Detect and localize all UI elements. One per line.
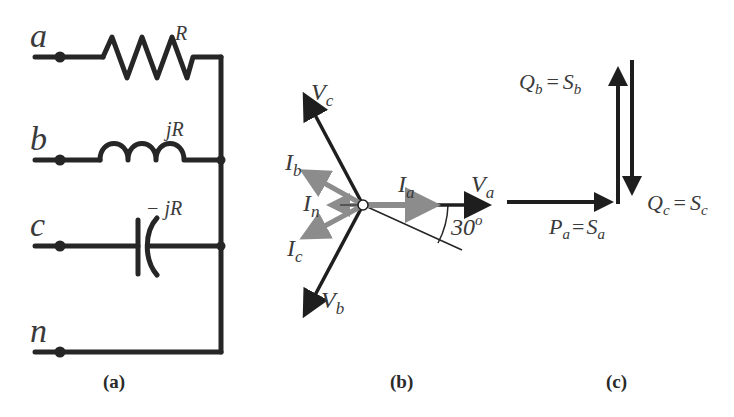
resistor-label: R (174, 22, 187, 44)
caption-b: (b) (390, 371, 413, 393)
inductor-icon (100, 144, 221, 161)
junction-b-dot (217, 156, 226, 165)
panel-a-circuit (35, 37, 221, 352)
inductor-label: jR (163, 118, 184, 141)
terminal-c-dot (55, 241, 66, 252)
label-ia: Ia (397, 171, 415, 202)
terminal-dots (55, 52, 226, 358)
label-vc: Vc (311, 79, 334, 110)
terminal-a-dot (55, 52, 66, 63)
label-ic: Ic (286, 235, 303, 266)
angle-label: 30o (450, 212, 483, 240)
phasor-ib-arrow (306, 173, 360, 203)
figure-canvas: a b c n R jR − jR (a) Vc Va Vb Ia Ib In … (0, 0, 734, 417)
terminal-a-label: a (30, 17, 47, 54)
terminal-b-label: b (30, 120, 47, 157)
terminal-c-label: c (30, 206, 45, 243)
label-pa-sa: Pa=Sa (548, 214, 605, 242)
junction-c-dot (217, 242, 226, 251)
label-qc-sc: Qc=Sc (647, 190, 708, 218)
label-in: In (302, 190, 320, 221)
caption-c: (c) (606, 371, 627, 393)
angle-arc (438, 205, 448, 243)
capacitor-label: − jR (146, 197, 182, 220)
terminal-b-dot (55, 155, 66, 166)
terminal-n-dot (55, 347, 66, 358)
origin-dot (358, 200, 368, 210)
label-vb: Vb (321, 287, 344, 318)
label-qb-sb: Qb=Sb (519, 69, 582, 97)
label-ib: Ib (284, 149, 302, 180)
resistor-icon (103, 37, 221, 78)
panel-b-phasors (306, 98, 485, 312)
caption-a: (a) (103, 371, 125, 393)
terminal-n-label: n (30, 312, 47, 349)
label-va: Va (471, 171, 494, 202)
